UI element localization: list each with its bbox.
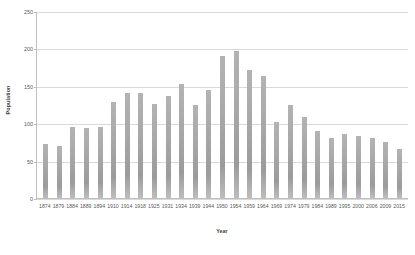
- bar: [179, 84, 184, 198]
- bar: [315, 131, 320, 198]
- bar: [234, 51, 239, 198]
- bar: [125, 93, 130, 198]
- bar-slot: [297, 12, 311, 198]
- bar: [329, 138, 334, 198]
- x-tick-label: 2009: [379, 200, 393, 216]
- y-tick-label: 50: [27, 159, 37, 165]
- x-tick-label: 2006: [365, 200, 379, 216]
- bar: [111, 102, 116, 198]
- bar-slot: [324, 12, 338, 198]
- y-axis-title: Population: [2, 0, 14, 200]
- bar-slot: [257, 12, 271, 198]
- bar: [193, 105, 198, 199]
- x-axis-ticks: 1874187918841889189419101914191819251931…: [36, 200, 408, 216]
- bar: [220, 56, 225, 198]
- bar-slot: [53, 12, 67, 198]
- x-tick-label: 1925: [147, 200, 161, 216]
- y-tick-label: 250: [24, 9, 37, 15]
- bar: [57, 146, 62, 198]
- x-tick-label: 1984: [311, 200, 325, 216]
- bar-slot: [161, 12, 175, 198]
- bar: [138, 93, 143, 198]
- bar-slot: [284, 12, 298, 198]
- bar-slot: [202, 12, 216, 198]
- bar: [302, 117, 307, 198]
- bar: [152, 104, 157, 198]
- bar-slot: [66, 12, 80, 198]
- bar: [274, 122, 279, 198]
- bar: [98, 127, 103, 198]
- x-tick-label: 1989: [324, 200, 338, 216]
- plot-area: 050100150200250: [36, 12, 408, 199]
- x-tick-label: 1918: [133, 200, 147, 216]
- bar-slot: [93, 12, 107, 198]
- y-tick-label: 200: [24, 46, 37, 52]
- bar-slot: [270, 12, 284, 198]
- bar-slot: [352, 12, 366, 198]
- bar-slot: [379, 12, 393, 198]
- bar-slot: [80, 12, 94, 198]
- x-tick-label: 1950: [215, 200, 229, 216]
- y-tick-label: 100: [24, 121, 37, 127]
- x-tick-label: 1910: [106, 200, 120, 216]
- x-tick-label: 1995: [338, 200, 352, 216]
- x-tick-label: 1934: [174, 200, 188, 216]
- bar: [247, 70, 252, 198]
- bar-slot: [175, 12, 189, 198]
- bar-slot: [311, 12, 325, 198]
- x-tick-label: 1874: [38, 200, 52, 216]
- x-axis-title: Year: [36, 228, 408, 234]
- population-bar-chart: Population 050100150200250 1874187918841…: [0, 0, 415, 255]
- x-tick-label: 1879: [52, 200, 66, 216]
- x-tick-label: 1931: [161, 200, 175, 216]
- bar-slot: [243, 12, 257, 198]
- bar: [383, 142, 388, 198]
- x-tick-label: 1914: [120, 200, 134, 216]
- x-tick-label: 1884: [65, 200, 79, 216]
- y-tick-label: 150: [24, 84, 37, 90]
- x-tick-label: 1964: [256, 200, 270, 216]
- bar: [70, 127, 75, 198]
- bar-slot: [39, 12, 53, 198]
- y-axis-title-text: Population: [5, 86, 11, 115]
- x-tick-label: 1939: [188, 200, 202, 216]
- bar-series: [37, 12, 408, 198]
- x-tick-label: 1979: [297, 200, 311, 216]
- bar: [342, 134, 347, 198]
- x-tick-label: 1969: [270, 200, 284, 216]
- bar-slot: [134, 12, 148, 198]
- bar: [356, 136, 361, 198]
- bar: [206, 90, 211, 198]
- x-tick-label: 1889: [79, 200, 93, 216]
- bar-slot: [148, 12, 162, 198]
- x-tick-label: 1954: [229, 200, 243, 216]
- bar: [166, 96, 171, 198]
- bar-slot: [121, 12, 135, 198]
- bar-slot: [365, 12, 379, 198]
- bar: [261, 76, 266, 198]
- x-tick-label: 1944: [202, 200, 216, 216]
- bar-slot: [338, 12, 352, 198]
- bar-slot: [392, 12, 406, 198]
- bar-slot: [229, 12, 243, 198]
- x-tick-label: 2015: [392, 200, 406, 216]
- bar-slot: [216, 12, 230, 198]
- bar: [397, 149, 402, 198]
- bar: [43, 144, 48, 198]
- bar: [370, 138, 375, 198]
- x-tick-label: 1959: [242, 200, 256, 216]
- bar-slot: [107, 12, 121, 198]
- bar: [84, 128, 89, 198]
- bar-slot: [189, 12, 203, 198]
- x-tick-label: 2000: [351, 200, 365, 216]
- x-tick-label: 1894: [93, 200, 107, 216]
- bar: [288, 105, 293, 199]
- x-tick-label: 1974: [283, 200, 297, 216]
